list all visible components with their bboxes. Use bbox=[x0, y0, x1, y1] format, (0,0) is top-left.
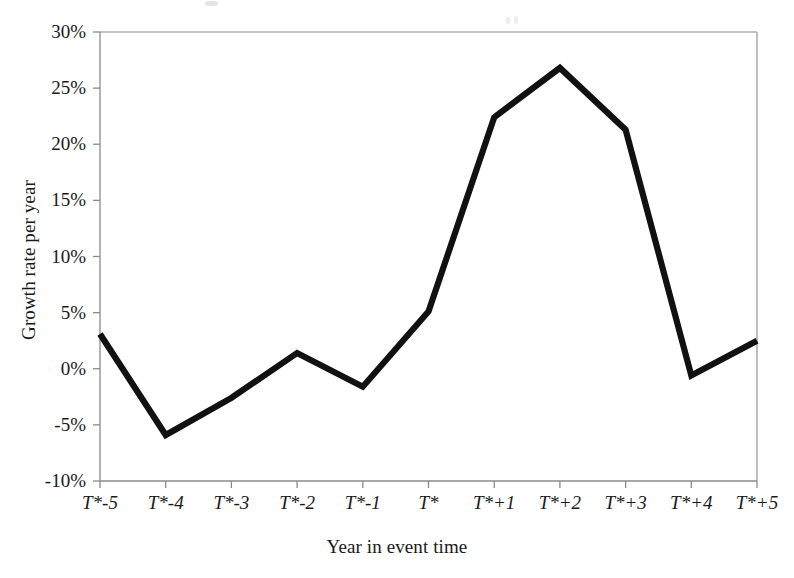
x-axis-title: Year in event time bbox=[0, 536, 794, 558]
x-tick-label: T*+5 bbox=[709, 492, 794, 514]
data-series-line bbox=[100, 68, 757, 435]
figure-container: Growth rate per year -10%-5%0%5%10%15%20… bbox=[0, 0, 794, 578]
